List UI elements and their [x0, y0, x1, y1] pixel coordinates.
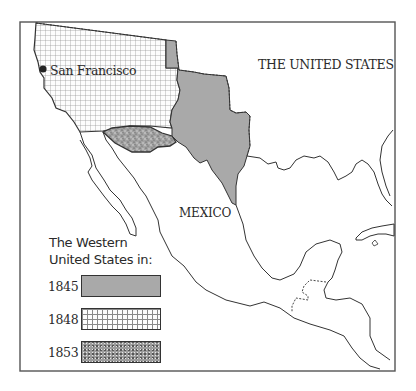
legend-swatch-solid [81, 275, 161, 297]
mexico-pacific-coast [172, 256, 380, 369]
legend-year: 1853 [48, 345, 78, 360]
legend-swatch-stipple [81, 341, 161, 363]
gulf-coast-mexico [236, 205, 342, 298]
central-america-coast [326, 298, 390, 360]
region-1853-purchase [103, 126, 176, 152]
cuba [356, 224, 394, 240]
legend-title-line1: The Western [49, 234, 152, 251]
florida-atlantic-coast [380, 130, 393, 196]
guatemala-border [292, 280, 326, 312]
legend-item-1848: 1848 [48, 307, 161, 331]
legend-swatch-grid [81, 308, 161, 330]
legend-item-1845: 1845 [48, 274, 161, 298]
us-gulf-coast [247, 156, 392, 206]
small-island [372, 240, 378, 246]
city-label-san-francisco: San Francisco [50, 63, 136, 78]
legend-title-line2: United States in: [49, 251, 152, 268]
legend-title: The Western United States in: [49, 234, 152, 268]
legend-year: 1848 [48, 312, 78, 327]
city-marker-icon [39, 65, 46, 72]
legend-item-1853: 1853 [48, 340, 161, 364]
region-1845-texas [166, 40, 250, 205]
legend-year: 1845 [48, 279, 78, 294]
country-label-united-states: THE UNITED STATES [258, 57, 394, 72]
country-label-mexico: MEXICO [179, 206, 231, 220]
